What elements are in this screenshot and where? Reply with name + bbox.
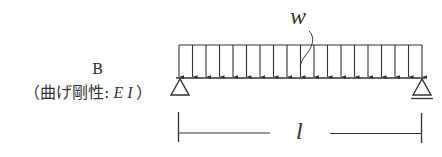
load-label: w [290,3,306,30]
roller-support-icon [411,79,433,99]
beam-label: B [92,60,103,78]
load-arrows [179,45,422,77]
load-leader-line [300,31,313,66]
stiffness-value: E I [113,84,132,101]
stiffness-label: （曲げ剛性:E I） [24,79,152,103]
pin-support-icon [171,79,189,95]
span-label: l [296,118,303,145]
stiffness-suffix: ） [136,83,152,102]
stiffness-prefix: （曲げ剛性: [24,83,109,102]
